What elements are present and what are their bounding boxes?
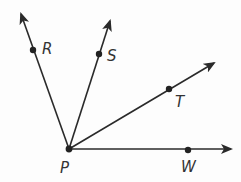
point-label-s: S (107, 49, 117, 64)
point-r (30, 47, 36, 53)
point-label-w: W (181, 160, 196, 175)
point-w (185, 147, 191, 153)
point-s (96, 51, 102, 57)
vertex-label-p: P (60, 161, 69, 176)
ray-pt (69, 63, 214, 149)
point-label-t: T (175, 95, 184, 110)
diagram-canvas: P R S T W (0, 0, 241, 182)
rays-diagram (0, 0, 241, 182)
point-label-r: R (42, 42, 52, 57)
point-t (166, 86, 172, 92)
rays (21, 14, 231, 149)
vertex-point-p (66, 146, 73, 153)
ray-ps (69, 21, 110, 149)
ray-pr (21, 14, 69, 149)
